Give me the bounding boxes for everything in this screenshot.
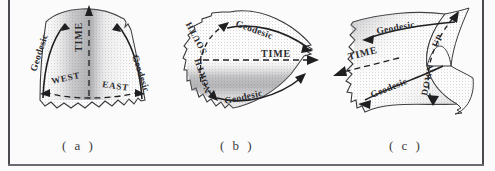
panel-b-diagram: Geodesic Geodesic SOUTH NORTH TIME — [167, 0, 327, 135]
figure-frame: Geodesic Geodesic TIME WEST EAST — [0, 0, 495, 171]
caption-b: ( b ) — [220, 138, 254, 154]
panel-c-diagram: Geodesic Geodesic UP DOWN TIME — [327, 0, 485, 135]
panel-a-diagram: Geodesic Geodesic TIME WEST EAST — [12, 0, 167, 135]
time-axis-arrowhead-c — [333, 66, 347, 76]
caption-a: ( a ) — [62, 138, 95, 154]
lower-geodesic-arrowhead-b — [295, 73, 306, 84]
time-axis-arrowhead-b — [307, 55, 319, 65]
surface-shading-a — [40, 9, 145, 100]
time-label-b: TIME — [261, 48, 291, 59]
caption-c: ( c ) — [389, 138, 422, 154]
time-label-a: TIME — [73, 22, 84, 52]
